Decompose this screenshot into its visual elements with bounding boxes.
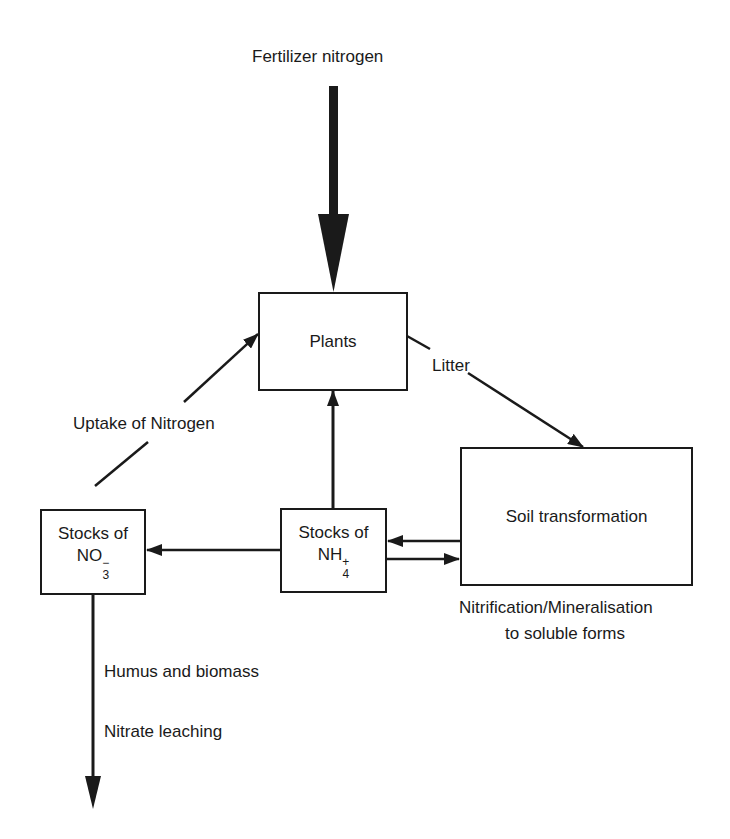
soil-caption-line1: Nitrification/Mineralisation (459, 598, 653, 618)
litter-arrow (407, 336, 583, 447)
humus-biomass-label: Humus and biomass (104, 662, 259, 682)
leaching-arrow (85, 595, 101, 809)
plants-node: Plants (258, 292, 408, 391)
no3-stocks-node: Stocks of NO−3 (40, 509, 146, 595)
nh4-formula: NH+4 (318, 544, 350, 580)
no3-line1: Stocks of (58, 523, 128, 545)
nh4-stocks-node: Stocks of NH+4 (280, 508, 387, 593)
nitrate-leaching-label: Nitrate leaching (104, 722, 222, 742)
litter-label: Litter (432, 356, 470, 376)
uptake-label: Uptake of Nitrogen (73, 414, 215, 434)
fertilizer-arrow (318, 86, 349, 292)
plants-label: Plants (309, 331, 356, 353)
no3-formula: NO−3 (77, 545, 110, 581)
fertilizer-nitrogen-label: Fertilizer nitrogen (252, 47, 383, 67)
soil-caption-line2: to soluble forms (505, 624, 625, 644)
soil-transformation-label: Soil transformation (506, 506, 648, 528)
soil-transformation-node: Soil transformation (460, 447, 693, 586)
uptake-arrow (95, 334, 258, 486)
nh4-line1: Stocks of (299, 522, 369, 544)
